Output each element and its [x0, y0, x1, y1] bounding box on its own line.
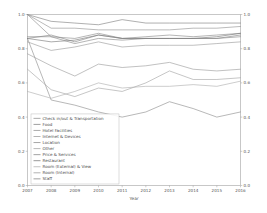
- x-tick-label: 2009: [70, 188, 81, 193]
- data-series-group: [28, 15, 241, 118]
- legend-label: Restaurant: [43, 158, 66, 163]
- legend-label: Food: [43, 122, 53, 127]
- y-tick-label-left: 0.8: [18, 46, 25, 51]
- series-line: [28, 42, 241, 51]
- series-line: [28, 35, 241, 42]
- legend-label: Other: [43, 146, 55, 151]
- y-tick-label-right: 1.0: [244, 12, 251, 17]
- series-line: [28, 15, 241, 39]
- x-tick-label: 2007: [22, 188, 33, 193]
- y-tick-label-right: 0.4: [244, 115, 251, 120]
- y-axis-right-ticks: 0.00.20.40.60.81.0: [241, 12, 251, 188]
- legend-label: Price & Services: [43, 152, 76, 157]
- legend-label: Internet & Devices: [43, 134, 81, 139]
- series-line: [28, 54, 241, 76]
- x-tick-label: 2016: [235, 188, 246, 193]
- x-tick-label: 2008: [46, 188, 57, 193]
- y-tick-label-left: 1.0: [18, 12, 25, 17]
- x-tick-label: 2011: [117, 188, 128, 193]
- y-tick-label-right: 0.8: [244, 46, 251, 51]
- legend-label: Room (External) & View: [43, 164, 92, 169]
- legend-label: Hotel Facilities: [43, 128, 73, 133]
- x-axis-ticks: 2007200820092010201120122013201420152016: [22, 186, 246, 194]
- legend-label: Check in/out & Transportation: [43, 116, 104, 121]
- y-tick-label-right: 0.6: [244, 80, 251, 85]
- series-line: [28, 81, 241, 98]
- x-axis-label: Year: [128, 196, 138, 201]
- legend-label: Staff: [43, 176, 53, 181]
- y-tick-label-right: 0.2: [244, 149, 251, 154]
- y-tick-label-left: 0.6: [18, 80, 25, 85]
- x-tick-label: 2014: [188, 188, 199, 193]
- x-tick-label: 2013: [164, 188, 175, 193]
- y-tick-label-left: 0.2: [18, 149, 25, 154]
- series-line: [28, 38, 241, 117]
- x-tick-label: 2015: [212, 188, 223, 193]
- chart-legend: Check in/out & TransportationFoodHotel F…: [31, 114, 119, 184]
- legend-label: Room (Internal): [43, 170, 75, 175]
- series-line: [28, 15, 241, 25]
- y-tick-label-left: 0.4: [18, 115, 25, 120]
- x-tick-label: 2012: [141, 188, 152, 193]
- legend-label: Location: [43, 140, 61, 145]
- series-line: [28, 69, 241, 96]
- y-axis-left-ticks: 0.00.20.40.60.81.0: [18, 12, 28, 188]
- x-tick-label: 2010: [93, 188, 104, 193]
- chart-figure: 0.00.20.40.60.81.0 0.00.20.40.60.81.0 20…: [0, 0, 267, 213]
- line-chart: 0.00.20.40.60.81.0 0.00.20.40.60.81.0 20…: [0, 0, 267, 213]
